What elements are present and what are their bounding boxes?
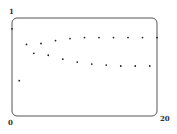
data-point: [156, 37, 158, 39]
data-point: [84, 37, 86, 39]
data-point: [18, 80, 20, 82]
data-point: [47, 54, 49, 56]
data-point: [113, 37, 115, 39]
data-point: [98, 37, 100, 39]
plot-frame: [12, 18, 157, 116]
data-point: [91, 63, 93, 65]
data-point: [120, 65, 122, 67]
data-point: [105, 64, 107, 66]
data-point: [33, 52, 35, 54]
data-point: [62, 58, 64, 60]
data-point: [11, 28, 13, 30]
y-top-tick-label: 1: [9, 7, 14, 16]
data-point: [69, 38, 71, 40]
data-points: [11, 28, 158, 82]
chart: 1 0 20: [0, 0, 177, 134]
data-point: [26, 44, 28, 46]
data-point: [127, 37, 129, 39]
data-point: [142, 37, 144, 39]
data-point: [134, 65, 136, 67]
x-right-tick-label: 20: [160, 114, 170, 123]
data-point: [76, 61, 78, 63]
data-point: [40, 43, 42, 45]
data-point: [55, 40, 57, 42]
data-point: [149, 65, 151, 67]
origin-tick-label: 0: [8, 118, 13, 127]
